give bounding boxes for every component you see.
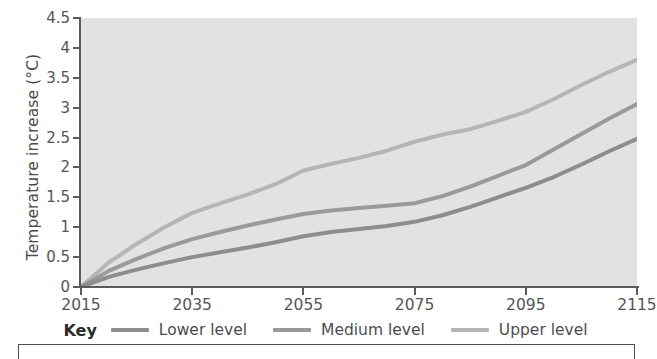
y-tick-label: 2.5 xyxy=(6,129,70,147)
series-line-medium-level xyxy=(81,104,637,287)
legend-label-medium-level: Medium level xyxy=(321,321,425,339)
y-tick-label: 3.5 xyxy=(6,69,70,87)
legend-swatch-lower-level xyxy=(111,328,149,332)
y-tick-label: 1.5 xyxy=(6,188,70,206)
x-tick-label: 2115 xyxy=(617,296,656,314)
y-tick-mark xyxy=(73,107,81,109)
y-tick-mark xyxy=(73,226,81,228)
x-tick-mark xyxy=(191,286,193,295)
y-axis-line xyxy=(79,17,81,288)
x-tick-label: 2055 xyxy=(284,296,323,314)
y-tick-label: 4.5 xyxy=(6,9,70,27)
x-tick-label: 2075 xyxy=(395,296,434,314)
y-tick-mark xyxy=(73,196,81,198)
series-line-lower-level xyxy=(81,139,637,287)
y-tick-label: 0.5 xyxy=(6,248,70,266)
legend-item-lower-level: Lower level xyxy=(111,321,247,339)
y-tick-mark xyxy=(73,47,81,49)
legend-label-lower-level: Lower level xyxy=(159,321,247,339)
y-tick-mark xyxy=(73,17,81,19)
y-tick-mark xyxy=(73,137,81,139)
legend-key-label: Key xyxy=(63,321,96,340)
x-tick-mark xyxy=(636,286,638,295)
x-tick-mark xyxy=(80,286,82,295)
y-tick-label: 4 xyxy=(6,39,70,57)
x-tick-mark xyxy=(414,286,416,295)
x-axis-line xyxy=(79,286,639,288)
y-tick-mark xyxy=(73,166,81,168)
y-tick-label: 2 xyxy=(6,158,70,176)
y-tick-label: 0 xyxy=(6,278,70,296)
legend-swatch-upper-level xyxy=(451,328,489,332)
series-line-upper-level xyxy=(81,60,637,287)
series-canvas xyxy=(81,18,637,287)
plot-area xyxy=(81,18,637,287)
y-tick-label: 1 xyxy=(6,218,70,236)
legend-swatch-medium-level xyxy=(273,328,311,332)
y-tick-label: 3 xyxy=(6,99,70,117)
y-tick-mark xyxy=(73,77,81,79)
x-tick-mark xyxy=(525,286,527,295)
chart-legend: Key Lower level Medium level Upper level xyxy=(0,318,651,342)
y-tick-mark xyxy=(73,256,81,258)
x-tick-label: 2095 xyxy=(506,296,545,314)
x-tick-mark xyxy=(302,286,304,295)
legend-item-upper-level: Upper level xyxy=(451,321,588,339)
legend-item-medium-level: Medium level xyxy=(273,321,425,339)
x-tick-label: 2035 xyxy=(172,296,211,314)
page-box-edge xyxy=(18,344,635,359)
x-tick-label: 2015 xyxy=(61,296,100,314)
legend-label-upper-level: Upper level xyxy=(499,321,588,339)
